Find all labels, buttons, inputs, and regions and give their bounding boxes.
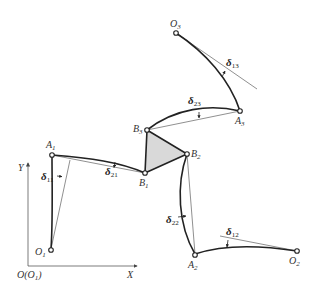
label-a3: A3	[234, 115, 245, 128]
label-delta-22: δ22	[166, 213, 179, 227]
label-b3: B3	[133, 123, 143, 136]
label-delta-12: δ12	[226, 225, 239, 239]
d22-arrow-icon	[178, 216, 186, 217]
joint-a1	[50, 153, 55, 158]
joint-o2	[295, 249, 300, 254]
label-a1: A1	[45, 139, 56, 152]
label-o2: O2	[289, 255, 300, 268]
joint-b1	[143, 171, 148, 176]
label-o3: O3	[170, 18, 181, 31]
label-o1: O1	[35, 246, 46, 259]
label-a2: A2	[187, 259, 198, 272]
label-delta-21: δ21	[105, 165, 118, 179]
joint-a2	[193, 253, 198, 258]
y-axis-label: Y	[18, 162, 25, 173]
coordinate-axes: Y X O(O1)	[17, 162, 137, 282]
chord-a1-b1	[52, 155, 145, 173]
deflection-arrows	[57, 71, 228, 247]
joint-o1	[49, 248, 54, 253]
d12-arrow-icon	[227, 240, 228, 247]
label-b1: B1	[139, 177, 149, 190]
label-delta-13: δ13	[226, 56, 239, 70]
origin-label: O(O1)	[17, 269, 42, 282]
deflection-labels: δ11 δ21 δ22 δ12 δ23 δ13	[41, 56, 239, 239]
d13-arrow-icon	[222, 71, 225, 77]
link-o1-a1	[51, 155, 52, 249]
joint-a3	[238, 109, 243, 114]
mechanism-diagram: Y X O(O1)	[0, 0, 317, 292]
label-b2: B2	[191, 148, 201, 161]
x-axis-label: X	[126, 269, 134, 280]
joint-o3	[174, 31, 179, 36]
joint-b2	[185, 152, 190, 157]
joint-b3	[145, 128, 150, 133]
link-o3-a3	[176, 33, 240, 111]
rigid-triangle	[145, 130, 187, 173]
link-b2-a2	[180, 154, 195, 254]
label-delta-23: δ23	[188, 94, 201, 108]
link-b3-a3	[147, 108, 240, 130]
chord-o1-a1	[51, 160, 70, 249]
d11-arrow-icon	[57, 176, 62, 177]
